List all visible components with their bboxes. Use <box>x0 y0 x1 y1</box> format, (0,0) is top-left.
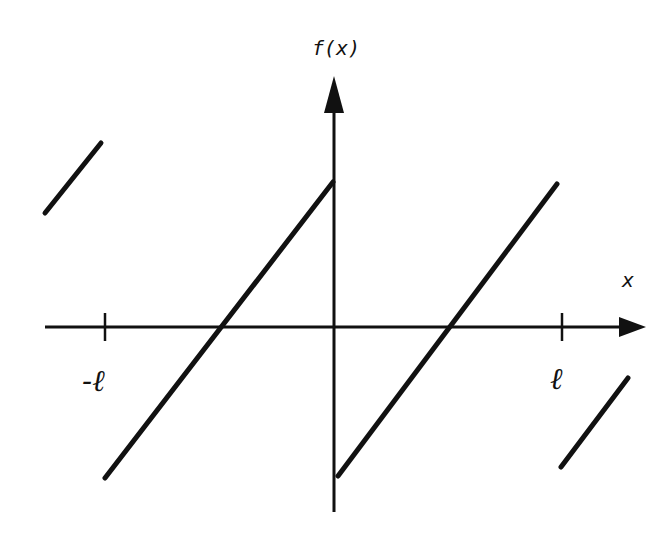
sawtooth-diagram: f(x) x -ℓ ℓ <box>0 0 670 537</box>
y-axis-arrow-icon <box>324 76 344 113</box>
x-axis-arrow-icon <box>619 317 646 337</box>
segment-far-right <box>561 378 628 467</box>
x-axis-label: x <box>622 270 634 290</box>
segment-far-left <box>45 143 101 213</box>
neg-l-tick-label: -ℓ <box>82 366 105 396</box>
segment-left-period <box>105 182 333 478</box>
y-axis-label: f(x) <box>312 38 360 58</box>
diagram-canvas <box>0 0 670 537</box>
pos-l-tick-label: ℓ <box>550 364 563 394</box>
segment-right-period <box>338 184 557 476</box>
